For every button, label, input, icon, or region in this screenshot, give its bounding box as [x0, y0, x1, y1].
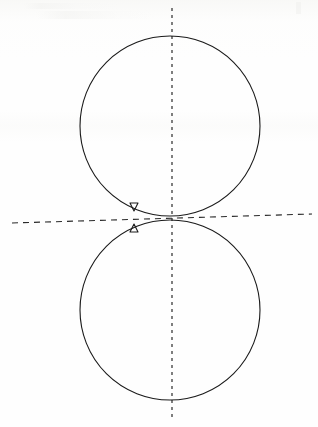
upper-circle: [80, 36, 260, 216]
figure-canvas: [0, 0, 318, 427]
lower-circle: [80, 220, 260, 400]
diagram-svg: [0, 0, 318, 427]
